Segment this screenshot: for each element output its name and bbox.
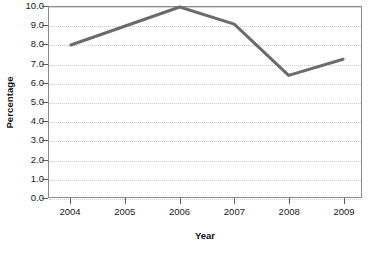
gridline-y-0 [49, 199, 361, 201]
x-axis-tick-mark [180, 198, 181, 204]
series-line-percentage [71, 7, 343, 75]
x-axis-tick-mark [344, 198, 345, 204]
x-axis-tick-label: 2009 [333, 207, 354, 217]
x-axis-tick-label: 2006 [169, 207, 190, 217]
x-axis-tick-mark [125, 198, 126, 204]
plot-area [48, 6, 362, 198]
x-axis-tick-mark [234, 198, 235, 204]
x-axis-tick-label: 2007 [224, 207, 245, 217]
x-axis-tick-label: 2005 [114, 207, 135, 217]
y-axis-tick-mark [42, 198, 48, 199]
x-axis-tick-label: 2008 [279, 207, 300, 217]
x-axis-tick-label: 2004 [59, 207, 80, 217]
x-axis-title: Year [48, 230, 362, 241]
plot-inner [49, 7, 361, 197]
line-chart-figure: Percentage 10.09.08.07.06.05.04.03.02.01… [0, 0, 378, 253]
x-axis-tick-mark [289, 198, 290, 204]
series-line-svg [49, 7, 361, 197]
x-axis-tick-mark [70, 198, 71, 204]
y-axis-title-label: Percentage [4, 76, 15, 128]
y-axis-tick-label-group: 10.09.08.07.06.05.04.03.02.01.00.0 [16, 6, 44, 198]
